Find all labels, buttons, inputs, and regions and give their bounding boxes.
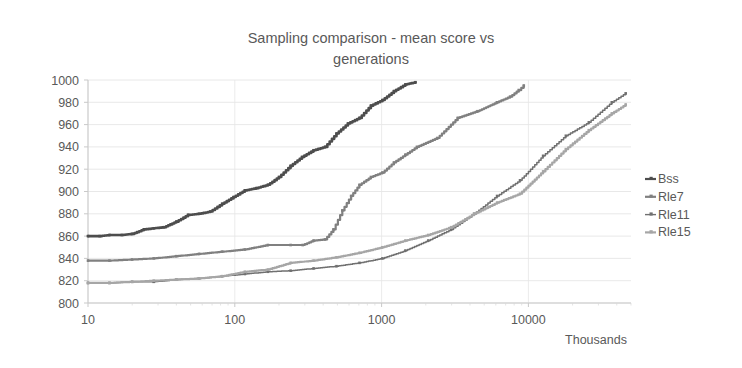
data-point-marker (175, 255, 178, 258)
data-point-marker (289, 269, 292, 272)
data-point-marker (131, 258, 134, 261)
legend-label-rle15[interactable]: Rle15 (658, 225, 691, 239)
data-point-marker (209, 210, 212, 213)
data-point-marker (301, 244, 304, 247)
data-point-marker (312, 259, 315, 262)
data-point-marker (565, 148, 568, 151)
data-point-marker (404, 83, 407, 86)
data-point-marker (381, 246, 384, 249)
data-point-marker (588, 129, 591, 132)
data-point-marker (517, 89, 520, 92)
data-point-marker (289, 244, 292, 247)
series-line-rle7 (88, 86, 524, 261)
data-point-marker (152, 279, 155, 282)
data-point-marker (312, 267, 315, 270)
data-point-marker (221, 202, 224, 205)
data-point-marker (108, 282, 111, 285)
data-point-marker (335, 132, 338, 135)
data-point-marker (542, 155, 545, 158)
data-point-marker (187, 214, 190, 217)
data-point-marker (624, 103, 627, 106)
data-point-marker (289, 165, 292, 168)
data-point-marker (244, 270, 247, 273)
data-point-marker (450, 226, 453, 229)
chart-container: Sampling comparison - mean score vs gene… (0, 0, 742, 368)
data-point-marker (565, 134, 568, 137)
data-point-marker (335, 256, 338, 259)
data-point-marker (496, 201, 499, 204)
legend-marker (650, 230, 653, 233)
data-point-marker (152, 227, 155, 230)
data-point-marker (393, 161, 396, 164)
data-point-marker (416, 146, 419, 149)
data-point-marker (267, 244, 270, 247)
data-point-marker (393, 90, 396, 93)
data-point-marker (427, 239, 430, 242)
x-axis-tick-label: 100 (224, 313, 245, 327)
data-point-marker (341, 209, 344, 212)
data-point-marker (509, 95, 512, 98)
data-point-marker (244, 248, 247, 251)
data-point-marker (624, 92, 627, 95)
data-point-marker (358, 117, 361, 120)
y-axis-tick-label: 980 (58, 96, 79, 110)
legend-label-rle11[interactable]: Rle11 (658, 208, 690, 222)
data-point-marker (370, 176, 373, 179)
data-point-marker (496, 101, 499, 104)
data-point-marker (163, 226, 166, 229)
legend-marker (650, 195, 653, 198)
data-point-marker (370, 104, 373, 107)
data-point-marker (522, 84, 525, 87)
data-point-marker (358, 184, 361, 187)
data-point-marker (519, 192, 522, 195)
data-point-marker (267, 184, 270, 187)
x-axis-tick-label: 10 (81, 313, 95, 327)
data-point-marker (542, 170, 545, 173)
data-point-marker (198, 213, 201, 216)
data-point-marker (456, 117, 459, 120)
data-point-marker (198, 253, 201, 256)
data-point-marker (324, 146, 327, 149)
data-point-marker (473, 213, 476, 216)
data-point-marker (289, 262, 292, 265)
y-axis-tick-label: 820 (58, 274, 79, 288)
y-axis-tick-label: 1000 (51, 74, 79, 88)
x-axis-title: Thousands (565, 333, 627, 347)
y-axis-tick-label: 900 (58, 185, 79, 199)
data-point-marker (221, 250, 224, 253)
legend-label-bss[interactable]: Bss (658, 172, 679, 186)
series-line-bss (88, 82, 415, 236)
data-point-marker (175, 278, 178, 281)
y-axis-tick-label: 800 (58, 297, 79, 311)
data-point-marker (404, 153, 407, 156)
data-point-marker (381, 257, 384, 260)
data-point-marker (255, 187, 258, 190)
data-point-marker (436, 137, 439, 140)
x-axis-tick-label: 1000 (368, 313, 396, 327)
data-point-marker (98, 235, 101, 238)
data-point-marker (404, 239, 407, 242)
data-point-marker (267, 268, 270, 271)
data-point-marker (332, 228, 335, 231)
data-point-marker (611, 101, 614, 104)
data-point-marker (347, 122, 350, 125)
data-point-marker (476, 110, 479, 113)
data-point-marker (358, 252, 361, 255)
data-point-marker (381, 171, 384, 174)
data-point-marker (324, 238, 327, 241)
data-point-marker (312, 239, 315, 242)
data-point-marker (335, 265, 338, 268)
legend-label-rle7[interactable]: Rle7 (658, 190, 684, 204)
data-point-marker (496, 195, 499, 198)
y-axis-tick-label: 940 (58, 140, 79, 154)
chart-plot-area: 8008208408608809009209409609801000101001… (0, 0, 742, 368)
data-point-marker (519, 179, 522, 182)
data-point-marker (244, 189, 247, 192)
data-point-marker (175, 220, 178, 223)
data-point-marker (108, 259, 111, 262)
y-axis-tick-label: 920 (58, 163, 79, 177)
data-point-marker (87, 235, 90, 238)
data-point-marker (198, 277, 201, 280)
data-point-marker (611, 112, 614, 115)
data-point-marker (108, 234, 111, 237)
